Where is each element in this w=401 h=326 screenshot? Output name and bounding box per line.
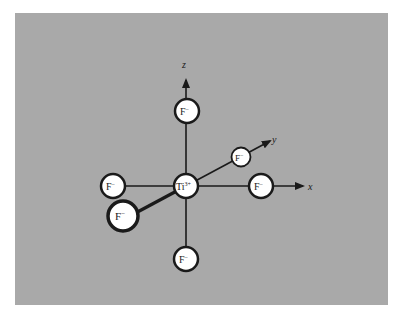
ligand-top: F− — [175, 99, 199, 123]
central-atom-ti: Ti3+ — [174, 174, 198, 198]
axis-label-y: y — [271, 134, 277, 145]
axis-label-x: x — [307, 181, 313, 192]
octahedral-diagram: z x y F− F− F− F− F− F− Ti3+ — [0, 0, 401, 326]
ligand-front: F− — [108, 201, 138, 231]
ligand-bottom: F− — [174, 247, 198, 271]
ligand-right: F− — [249, 174, 273, 198]
ligand-left: F− — [101, 174, 125, 198]
ligand-back: F− — [232, 148, 251, 167]
axes — [113, 80, 303, 260]
axis-label-z: z — [181, 59, 186, 70]
